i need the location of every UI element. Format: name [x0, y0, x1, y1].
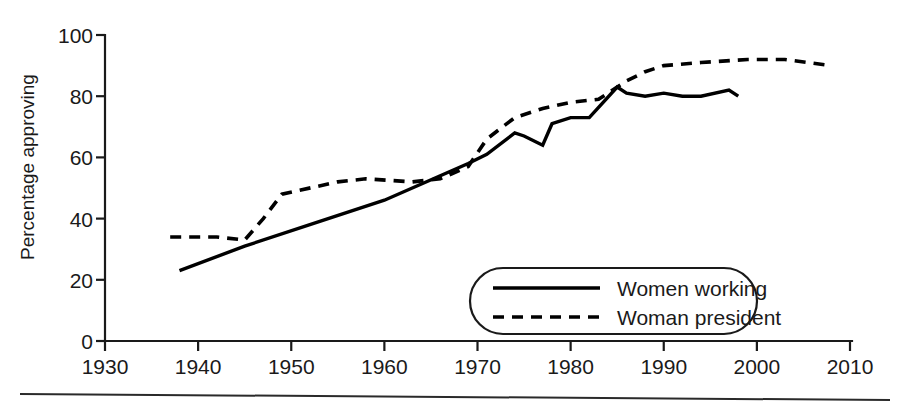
x-axis-tick-marks [105, 341, 850, 351]
x-tick-label: 1930 [82, 355, 129, 378]
y-axis-title: Percentage approving [17, 74, 38, 260]
y-tick-label: 60 [70, 146, 93, 169]
y-tick-label: 100 [58, 24, 93, 47]
x-tick-label: 2010 [827, 355, 874, 378]
x-tick-label: 1950 [268, 355, 315, 378]
figure-container: Percentage approving 020406080100 193019… [0, 0, 909, 412]
x-tick-label: 1970 [454, 355, 501, 378]
y-tick-label: 40 [70, 208, 93, 231]
series-line-women-working [180, 87, 739, 271]
legend-label-women-working: Women working [617, 277, 767, 300]
x-tick-label: 1940 [175, 355, 222, 378]
x-tick-label: 2000 [734, 355, 781, 378]
y-tick-label: 20 [70, 269, 93, 292]
chart-legend: Women working Woman president [470, 268, 781, 334]
y-axis-tick-labels: 020406080100 [58, 24, 93, 353]
y-axis-tick-marks [96, 35, 105, 341]
x-tick-label: 1960 [361, 355, 408, 378]
page-divider-rule [20, 394, 890, 400]
series-line-woman-president [170, 59, 831, 240]
x-tick-label: 1980 [547, 355, 594, 378]
x-axis-tick-labels: 193019401950196019701980199020002010 [82, 355, 874, 378]
y-tick-label: 0 [81, 330, 93, 353]
y-tick-label: 80 [70, 85, 93, 108]
legend-label-woman-president: Woman president [617, 306, 781, 329]
x-tick-label: 1990 [640, 355, 687, 378]
line-chart: Percentage approving 020406080100 193019… [0, 0, 909, 412]
